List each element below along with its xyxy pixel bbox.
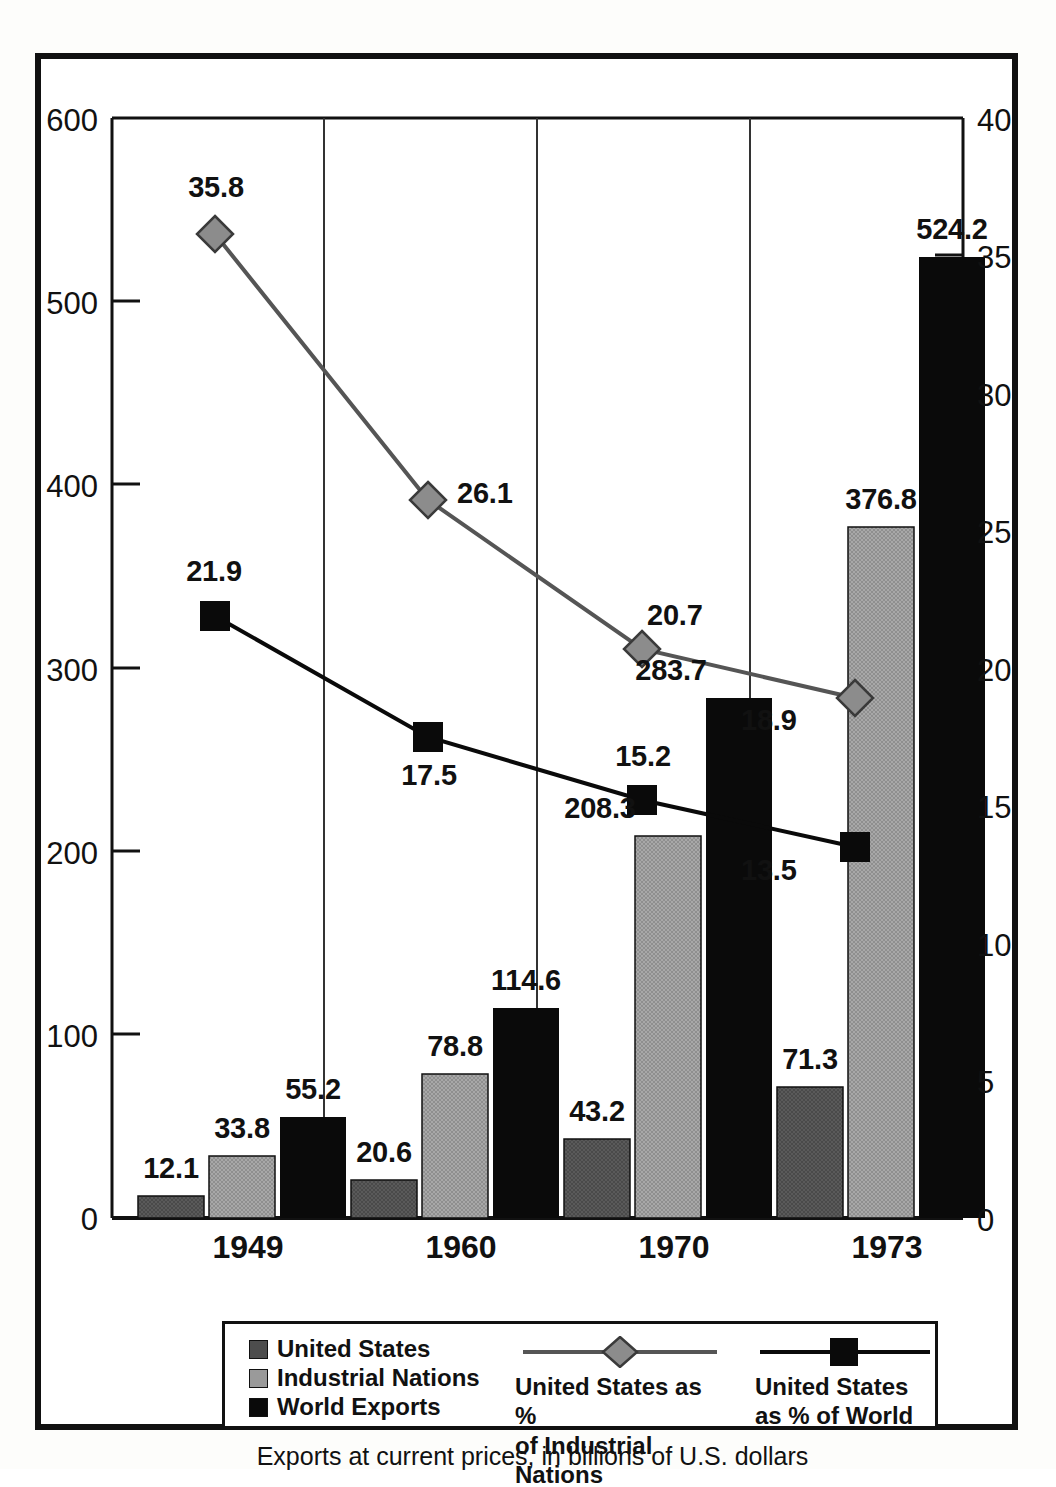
legend-item-united-states: United States (249, 1335, 480, 1363)
y-axis-tick-300: 300 (36, 653, 98, 689)
y2-axis-tick-40: 40 (977, 103, 1011, 139)
swatch-united-states-icon (249, 1340, 268, 1359)
bar-world-exports (493, 1008, 559, 1218)
bar-industrial-nations (422, 1074, 488, 1218)
y-axis-tick-400: 400 (36, 469, 98, 505)
bar-value-label: 524.2 (906, 213, 998, 246)
legend-caption-line-2: as % of World (755, 1401, 935, 1430)
x-axis-category-1970: 1970 (604, 1229, 744, 1266)
y2-axis-tick-0: 0 (977, 1203, 994, 1239)
legend-caption-line-1: United States (755, 1372, 935, 1401)
legend-label: World Exports (277, 1395, 441, 1419)
bar-value-label: 33.8 (204, 1112, 280, 1145)
bar-world-exports (919, 257, 985, 1218)
point-value-label: 20.7 (647, 599, 731, 632)
x-axis-category-1960: 1960 (391, 1229, 531, 1266)
square-marker (200, 601, 230, 631)
bar-value-label: 71.3 (772, 1043, 848, 1076)
y-axis-tick-100: 100 (36, 1019, 98, 1055)
x-axis-category-1973: 1973 (817, 1229, 957, 1266)
point-value-label: 17.5 (387, 759, 471, 792)
bar-united-states (777, 1087, 843, 1218)
legend-bar-keys: United States Industrial Nations World E… (249, 1335, 480, 1422)
bar-industrial-nations (209, 1156, 275, 1218)
legend-line-sample-square (755, 1336, 935, 1368)
y-axis-tick-600: 600 (36, 103, 98, 139)
point-value-label: 26.1 (457, 477, 541, 510)
chart-caption: Exports at current prices, in billions o… (41, 1442, 1024, 1471)
left-axis-ticks (112, 301, 140, 1034)
line-us-pct-industrial (197, 216, 873, 716)
bar-united-states (564, 1139, 630, 1218)
y2-axis-tick-15: 15 (977, 790, 1011, 826)
bar-value-label: 78.8 (417, 1030, 493, 1063)
point-value-label: 13.5 (741, 854, 825, 887)
point-value-label: 21.9 (172, 555, 256, 588)
bar-value-label: 114.6 (484, 964, 568, 997)
y-axis-tick-200: 200 (36, 836, 98, 872)
square-marker (840, 832, 870, 862)
bar-value-label: 55.2 (275, 1073, 351, 1106)
x-axis-category-1949: 1949 (178, 1229, 318, 1266)
legend-item-industrial-nations: Industrial Nations (249, 1364, 480, 1392)
bar-world-exports (706, 698, 772, 1218)
square-marker-icon (755, 1336, 935, 1368)
y2-axis-tick-10: 10 (977, 928, 1011, 964)
legend-item-world-exports: World Exports (249, 1393, 480, 1421)
diamond-marker-icon (515, 1336, 725, 1368)
bar-united-states (351, 1180, 417, 1218)
point-value-label: 18.9 (741, 704, 825, 737)
bar-value-label: 43.2 (559, 1095, 635, 1128)
y-axis-tick-0: 0 (36, 1202, 98, 1238)
bar-group-1970 (564, 698, 772, 1218)
legend-label: Industrial Nations (277, 1366, 480, 1390)
y2-axis-tick-5: 5 (977, 1065, 994, 1101)
legend-caption-line-1: United States as % (515, 1372, 725, 1431)
bar-world-exports (280, 1117, 346, 1218)
y2-axis-tick-25: 25 (977, 515, 1011, 551)
bar-value-label: 283.7 (625, 654, 717, 687)
bar-value-label: 376.8 (835, 483, 927, 516)
legend-label: United States (277, 1337, 430, 1361)
bar-value-label: 12.1 (133, 1152, 209, 1185)
chart-outer-frame: 600 500 400 300 200 100 0 40 35 30 25 20… (35, 53, 1018, 1430)
square-marker (413, 722, 443, 752)
point-value-label: 15.2 (601, 740, 685, 773)
legend-line-sample-diamond (515, 1336, 725, 1368)
legend-item-us-pct-world: United States as % of World (755, 1336, 935, 1431)
y-axis-tick-500: 500 (36, 286, 98, 322)
swatch-industrial-nations-icon (249, 1369, 268, 1388)
y2-axis-tick-30: 30 (977, 378, 1011, 414)
bar-value-label: 20.6 (346, 1136, 422, 1169)
swatch-world-exports-icon (249, 1398, 268, 1417)
bar-value-label: 208.3 (554, 792, 646, 825)
bar-industrial-nations (635, 836, 701, 1218)
point-value-label: 35.8 (174, 171, 258, 204)
bar-united-states (138, 1196, 204, 1218)
y2-axis-tick-20: 20 (977, 653, 1011, 689)
chart-legend: United States Industrial Nations World E… (222, 1321, 938, 1429)
bar-industrial-nations (848, 527, 914, 1218)
